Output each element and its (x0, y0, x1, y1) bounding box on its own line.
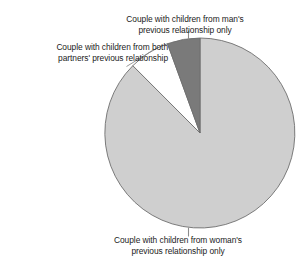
slice-label-both: Couple with children from both partners'… (4, 42, 168, 63)
slice-label-woman: Couple with children from woman's previo… (79, 235, 277, 256)
slice-label-man: Couple with children from man's previous… (97, 14, 273, 35)
slice-label-man-line2: previous relationship only (97, 25, 273, 36)
slice-label-man-line1: Couple with children from man's (97, 14, 273, 25)
pie-chart-figure: Couple with children from man's previous… (0, 0, 307, 265)
slice-label-woman-line2: previous relationship only (79, 246, 277, 257)
slice-label-woman-line1: Couple with children from woman's (79, 235, 277, 246)
pie-chart-canvas (0, 0, 307, 265)
slice-label-both-line2: partners' previous relationship (4, 53, 168, 64)
slice-label-both-line1: Couple with children from both (4, 42, 168, 53)
